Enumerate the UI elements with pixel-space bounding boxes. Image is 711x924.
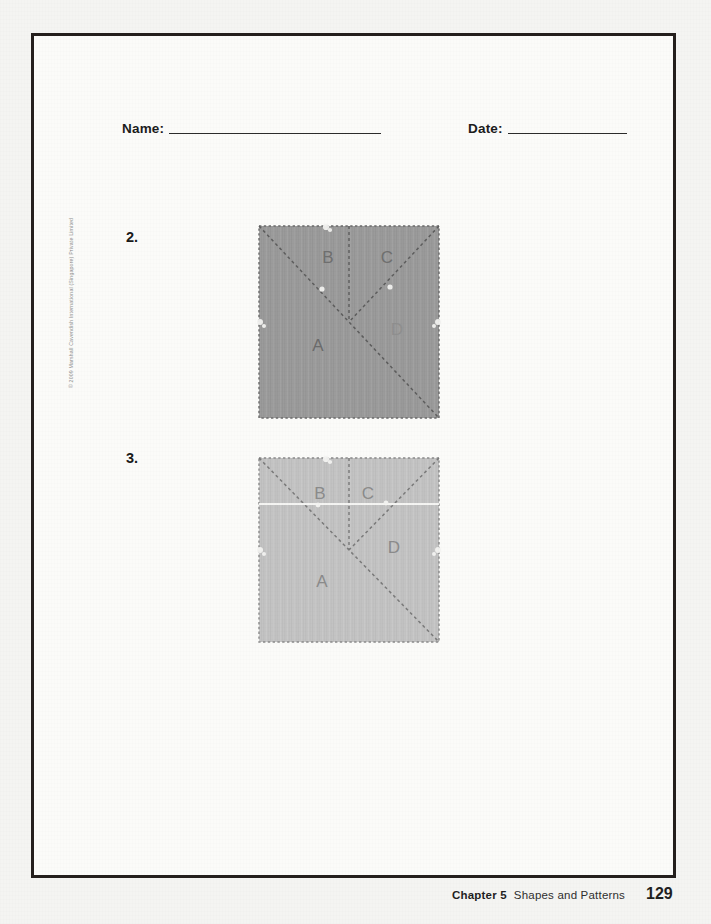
footer-page-number: 129	[646, 885, 673, 903]
figure-3-label-B: B	[314, 484, 325, 503]
page-footer: Chapter 5 Shapes and Patterns 129	[452, 885, 673, 903]
copyright-notice: © 2009 Marshall Cavendish International …	[68, 188, 74, 388]
figure-2-label-D: D	[391, 320, 403, 339]
figure-2-label-A: A	[312, 336, 324, 355]
figure-question-3: B C D A	[256, 455, 442, 645]
figure-3-label-C: C	[362, 484, 374, 503]
name-write-in-line[interactable]	[169, 133, 381, 134]
date-field-label: Date:	[468, 121, 503, 136]
figure-2-svg: B C A D	[256, 223, 442, 421]
figure-2-label-C: C	[381, 248, 393, 267]
question-number-2: 2.	[126, 229, 138, 245]
figure-3-label-D: D	[388, 538, 400, 557]
footer-chapter-title: Shapes and Patterns	[514, 889, 625, 901]
name-field-label: Name:	[122, 121, 164, 136]
name-field[interactable]: Name:	[122, 121, 381, 136]
figure-question-2: B C A D	[256, 223, 442, 421]
worksheet-page-frame: Name: Date: 2.	[31, 33, 676, 878]
figure-2-label-B: B	[322, 248, 333, 267]
date-field[interactable]: Date:	[468, 121, 627, 136]
question-number-3: 3.	[126, 450, 138, 466]
figure-3-label-A: A	[316, 572, 328, 591]
date-write-in-line[interactable]	[508, 133, 627, 134]
footer-chapter-label: Chapter 5	[452, 889, 507, 901]
figure-3-svg: B C D A	[256, 455, 442, 645]
